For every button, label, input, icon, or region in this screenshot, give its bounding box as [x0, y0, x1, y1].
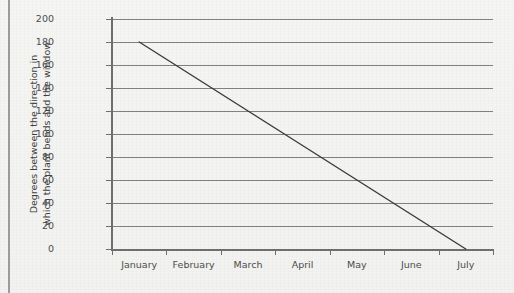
x-axis-tick	[330, 249, 331, 255]
x-axis-tick	[275, 249, 276, 255]
x-axis-tick-label: June	[401, 260, 422, 270]
line-chart: Degrees between the direction in which t…	[0, 0, 514, 293]
x-axis-tick-label: April	[292, 260, 314, 270]
x-axis-tick	[439, 249, 440, 255]
x-axis-tick-label: May	[347, 260, 367, 270]
x-axis-tick-label: July	[457, 260, 474, 270]
x-axis-tick-label: February	[173, 260, 215, 270]
x-axis-tick	[493, 249, 494, 255]
x-axis-tick	[384, 249, 385, 255]
x-axis-tick	[166, 249, 167, 255]
series-line	[0, 0, 514, 293]
x-axis-tick	[221, 249, 222, 255]
x-axis-tick-label: March	[234, 260, 263, 270]
x-axis-tick	[112, 249, 113, 255]
x-axis-tick-label: January	[121, 260, 157, 270]
